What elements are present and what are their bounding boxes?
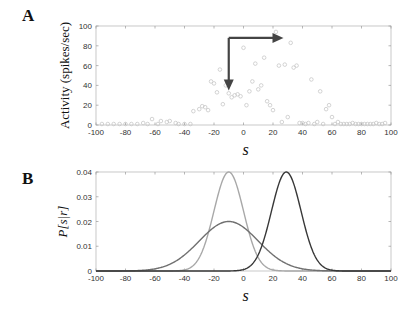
curve-narrow-gaussian-dark bbox=[96, 172, 391, 271]
x-tick-label: -40 bbox=[179, 274, 191, 283]
x-tick-label: -20 bbox=[208, 274, 220, 283]
chart-b-posterior-curves: -100-80-60-40-2002040608010000.010.020.0… bbox=[0, 0, 417, 312]
y-tick-label: 0 bbox=[88, 267, 93, 276]
curve-wide-gaussian-medium bbox=[96, 222, 391, 272]
y-tick-label: 0.02 bbox=[76, 218, 92, 227]
y-tick-label: 0.03 bbox=[76, 193, 92, 202]
x-tick-label: 0 bbox=[241, 274, 246, 283]
x-axis-label: s bbox=[242, 287, 248, 304]
curve-narrow-gaussian-light bbox=[96, 172, 391, 271]
x-tick-label: 20 bbox=[269, 274, 278, 283]
x-tick-label: -60 bbox=[149, 274, 161, 283]
y-tick-label: 0.04 bbox=[76, 168, 92, 177]
plot-frame bbox=[96, 172, 391, 271]
y-axis-label: P[s|r] bbox=[55, 206, 70, 239]
x-tick-label: 60 bbox=[328, 274, 337, 283]
x-tick-label: 100 bbox=[384, 274, 398, 283]
x-tick-label: 80 bbox=[357, 274, 366, 283]
y-tick-label: 0.01 bbox=[76, 242, 92, 251]
x-tick-label: 40 bbox=[298, 274, 307, 283]
x-tick-label: -80 bbox=[120, 274, 132, 283]
